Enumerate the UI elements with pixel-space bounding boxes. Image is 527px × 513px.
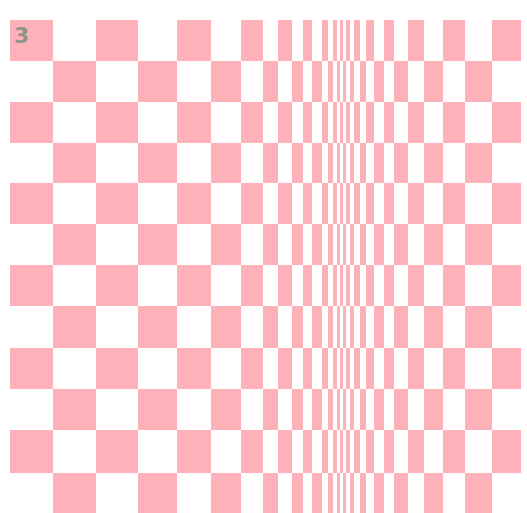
checker-cell — [96, 20, 138, 61]
checker-cell — [278, 430, 292, 473]
checker-cell — [408, 20, 424, 61]
checker-cell — [138, 306, 177, 348]
checker-cell — [337, 389, 340, 430]
checker-cell — [211, 306, 241, 348]
checker-cell — [211, 473, 241, 513]
checker-cell — [138, 143, 177, 183]
checker-cell — [322, 102, 328, 143]
checker-cell — [394, 224, 408, 265]
checker-cell — [322, 430, 328, 473]
checker-cell — [408, 348, 424, 389]
checker-cell — [424, 61, 443, 102]
checker-cell — [360, 61, 366, 102]
checker-cell — [340, 183, 343, 224]
checker-cell — [263, 61, 278, 102]
checker-cell — [177, 102, 211, 143]
checker-cell — [53, 143, 96, 183]
checker-cell — [241, 183, 263, 224]
checker-cell — [312, 224, 322, 265]
checker-cell — [96, 102, 138, 143]
checker-cell — [354, 183, 360, 224]
checker-cell — [374, 389, 384, 430]
checker-cell — [263, 389, 278, 430]
checker-cell — [337, 306, 340, 348]
checker-cell — [360, 389, 366, 430]
checker-cell — [343, 61, 346, 102]
checker-cell — [322, 348, 328, 389]
checker-cell — [492, 102, 521, 143]
checker-cell — [408, 265, 424, 306]
checker-cell — [384, 102, 394, 143]
checker-cell — [366, 430, 374, 473]
checker-cell — [328, 306, 333, 348]
checker-cell — [340, 430, 343, 473]
checker-cell — [492, 265, 521, 306]
checker-cell — [138, 61, 177, 102]
checker-cell — [346, 102, 350, 143]
checker-cell — [394, 306, 408, 348]
checker-cell — [138, 224, 177, 265]
checker-cell — [384, 265, 394, 306]
checker-cell — [328, 224, 333, 265]
checker-cell — [328, 61, 333, 102]
checker-cell — [211, 61, 241, 102]
checker-cell — [346, 430, 350, 473]
checker-cell — [394, 61, 408, 102]
checker-cell — [10, 102, 53, 143]
checker-cell — [138, 473, 177, 513]
checker-cell — [354, 265, 360, 306]
checker-cell — [10, 348, 53, 389]
checker-cell — [292, 143, 303, 183]
checker-cell — [322, 265, 328, 306]
checker-cell — [394, 389, 408, 430]
checker-cell — [343, 389, 346, 430]
checker-cell — [10, 183, 53, 224]
checker-cell — [408, 430, 424, 473]
checker-cell — [241, 430, 263, 473]
checker-cell — [408, 102, 424, 143]
checker-cell — [333, 265, 337, 306]
checker-cell — [333, 102, 337, 143]
checker-cell — [465, 306, 492, 348]
checker-cell — [333, 20, 337, 61]
checker-cell — [138, 389, 177, 430]
checker-cell — [424, 224, 443, 265]
checker-cell — [350, 473, 354, 513]
checker-cell — [278, 102, 292, 143]
checker-cell — [263, 306, 278, 348]
checker-cell — [322, 183, 328, 224]
checker-cell — [343, 473, 346, 513]
checker-cell — [374, 224, 384, 265]
checker-cell — [340, 348, 343, 389]
checker-cell — [312, 473, 322, 513]
checker-cell — [492, 20, 521, 61]
checker-cell — [10, 265, 53, 306]
checker-cell — [394, 143, 408, 183]
checker-cell — [96, 183, 138, 224]
checker-cell — [241, 265, 263, 306]
checker-cell — [354, 348, 360, 389]
checker-cell — [333, 430, 337, 473]
checker-cell — [350, 61, 354, 102]
checker-cell — [241, 348, 263, 389]
checker-cell — [443, 20, 465, 61]
checker-cell — [443, 102, 465, 143]
checker-cell — [354, 430, 360, 473]
checker-cell — [312, 306, 322, 348]
checker-cell — [337, 224, 340, 265]
checker-cell — [337, 473, 340, 513]
checker-cell — [354, 20, 360, 61]
checker-cell — [343, 224, 346, 265]
checker-cell — [241, 102, 263, 143]
checker-cell — [424, 143, 443, 183]
checker-cell — [177, 265, 211, 306]
checker-cell — [366, 265, 374, 306]
checker-cell — [333, 183, 337, 224]
checker-cell — [328, 389, 333, 430]
checker-cell — [374, 61, 384, 102]
checker-cell — [465, 224, 492, 265]
checker-cell — [53, 224, 96, 265]
checker-cell — [366, 183, 374, 224]
checker-cell — [177, 183, 211, 224]
checker-cell — [346, 20, 350, 61]
